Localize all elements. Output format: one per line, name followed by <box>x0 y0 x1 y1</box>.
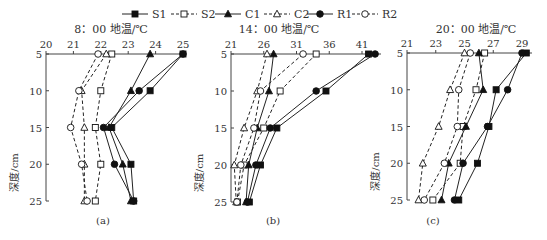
r2-point-icon <box>300 51 307 58</box>
r2-point-icon <box>76 87 83 94</box>
legend-item-c1: C1 <box>215 8 260 21</box>
s2-point-icon <box>313 51 319 57</box>
r1-point-icon <box>180 51 187 58</box>
r2-point-icon <box>238 162 245 169</box>
s2-point-icon <box>430 197 436 203</box>
y-tick-label: 25 <box>29 196 42 207</box>
c1-point-icon <box>265 87 272 94</box>
x-tick-label: 25 <box>458 38 471 49</box>
r1-point-icon <box>244 199 251 206</box>
y-tick-label: 5 <box>36 49 42 60</box>
y-tick-label: 20 <box>214 160 227 171</box>
y-axis-label: 深度/cm <box>193 153 205 192</box>
s1-marker-icon <box>132 11 138 17</box>
x-tick-label: 25 <box>177 39 190 50</box>
chart-panel-b: 14：00 地温/℃2126313641510152025深度/cm(b) <box>193 23 381 226</box>
r2-marker-icon <box>362 11 369 18</box>
y-tick-label: 25 <box>214 197 227 208</box>
s2-point-icon <box>92 198 98 204</box>
legend-item-s2: S2 <box>171 8 216 21</box>
y-tick-label: 10 <box>29 86 42 97</box>
y-tick-label: 10 <box>390 85 403 96</box>
legend-item-r2: R2 <box>352 8 397 21</box>
legend-item-s1: S1 <box>122 8 167 21</box>
s2-point-icon <box>482 50 488 56</box>
r1-point-icon <box>130 198 137 205</box>
c2-point-icon <box>81 124 88 131</box>
s2-point-icon <box>261 125 267 131</box>
s1-point-icon <box>493 87 499 93</box>
s1-point-icon <box>366 51 372 57</box>
panel-title: 8：00 地温/℃ <box>74 23 148 36</box>
legend-label: C1 <box>245 8 260 21</box>
r2-point-icon <box>78 161 85 168</box>
r2-point-icon <box>421 197 428 204</box>
c2-point-icon <box>419 159 426 166</box>
r1-point-icon <box>313 88 320 95</box>
x-tick-label: 23 <box>429 38 442 49</box>
s2-point-icon <box>473 87 479 93</box>
y-axis-label: 深度/cm <box>8 153 20 192</box>
x-tick-label: 23 <box>122 39 135 50</box>
s1-point-icon <box>323 88 329 94</box>
r2-point-icon <box>257 88 264 95</box>
legend-label: S1 <box>152 8 167 21</box>
r2-point-icon <box>454 123 461 130</box>
r1-point-icon <box>253 162 260 169</box>
c1-point-icon <box>480 86 487 93</box>
s2-point-icon <box>98 161 104 167</box>
c2-point-icon <box>241 124 248 131</box>
s1-point-icon <box>128 161 134 167</box>
s2-marker-icon <box>181 11 187 17</box>
r2-point-icon <box>251 125 258 132</box>
r1-point-icon <box>484 123 491 130</box>
legend-item-c2: C2 <box>264 8 309 21</box>
x-tick-label: 24 <box>149 39 162 50</box>
r2-point-icon <box>467 50 474 57</box>
r1-point-icon <box>460 160 467 167</box>
r1-point-icon <box>451 197 458 204</box>
y-tick-label: 5 <box>397 48 403 59</box>
y-tick-label: 25 <box>390 195 403 206</box>
x-tick-label: 27 <box>487 38 500 49</box>
c2-point-icon <box>435 123 442 130</box>
panel-caption: (c) <box>426 215 440 226</box>
soil-temperature-figure: S1S2C1C2R1R2 8：00 地温/℃202122232425510152… <box>0 0 547 240</box>
r1-point-icon <box>372 51 379 58</box>
c2-point-icon <box>447 86 454 93</box>
r2-point-icon <box>441 160 448 167</box>
r1-point-icon <box>111 161 118 168</box>
x-tick-label: 41 <box>356 39 369 50</box>
panel-caption: (a) <box>96 215 110 226</box>
s1-point-icon <box>147 88 153 94</box>
r1-point-icon <box>519 50 526 57</box>
c1-point-icon <box>127 87 134 94</box>
x-tick-label: 21 <box>67 39 80 50</box>
panel-title: 14：00 地温/℃ <box>239 23 320 36</box>
s2-point-icon <box>92 125 98 131</box>
r2-point-icon <box>455 86 462 93</box>
s1-point-icon <box>474 160 480 166</box>
y-axis-label: 深度/cm <box>369 152 381 191</box>
r2-point-icon <box>67 124 74 131</box>
y-tick-label: 15 <box>390 122 403 133</box>
legend-label: R2 <box>382 8 397 21</box>
chart-panel-c: 20：00 地温/℃2123252729510152025深度/cm(c) <box>369 23 532 226</box>
y-tick-label: 15 <box>214 123 227 134</box>
r2-point-icon <box>84 198 91 205</box>
y-tick-label: 5 <box>221 49 227 60</box>
s2-point-icon <box>98 88 104 94</box>
panels: 8：00 地温/℃202122232425510152025深度/cm(a)14… <box>8 23 532 226</box>
y-tick-label: 15 <box>29 123 42 134</box>
series-s1 <box>109 51 186 204</box>
chart-panel-a: 8：00 地温/℃202122232425510152025深度/cm(a) <box>8 23 189 226</box>
r2-point-icon <box>95 51 102 58</box>
r1-point-icon <box>504 86 511 93</box>
r1-point-icon <box>136 87 143 94</box>
x-tick-label: 31 <box>290 39 303 50</box>
y-tick-label: 10 <box>214 86 227 97</box>
y-tick-label: 20 <box>29 159 42 170</box>
y-tick-label: 20 <box>390 158 403 169</box>
x-tick-label: 26 <box>257 39 270 50</box>
x-tick-label: 22 <box>94 39 107 50</box>
